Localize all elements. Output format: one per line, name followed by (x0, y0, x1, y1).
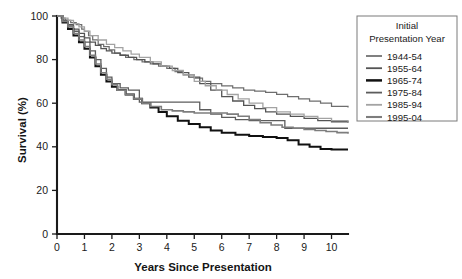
x-axis-ticks: 012345678910 (54, 234, 337, 253)
y-tick-label: 80 (36, 53, 48, 65)
legend-title-line-2: Presentation Year (369, 33, 446, 44)
legend-label-1975-84: 1975-84 (387, 87, 423, 98)
y-tick-label: 100 (30, 10, 48, 22)
legend-label-1944-54: 1944-54 (387, 51, 423, 62)
y-tick-label: 60 (36, 97, 48, 109)
legend-label-1995-04: 1995-04 (387, 112, 423, 123)
y-tick-label: 20 (36, 184, 48, 196)
x-tick-label: 3 (136, 241, 142, 253)
y-tick-label: 40 (36, 140, 48, 152)
survival-chart-figure: 020406080100 012345678910 Survival (%) Y… (0, 0, 462, 279)
x-tick-label: 9 (301, 241, 307, 253)
y-tick-label: 0 (42, 228, 48, 240)
legend-label-1965-74: 1965-74 (387, 75, 423, 86)
legend-label-1985-94: 1985-94 (387, 99, 423, 110)
survival-chart-svg: 020406080100 012345678910 Survival (%) Y… (0, 0, 462, 279)
chart-legend: Initial Presentation Year 1944-541955-64… (357, 16, 457, 123)
x-tick-label: 4 (164, 241, 170, 253)
x-tick-label: 8 (274, 241, 280, 253)
survival-curves-group (57, 16, 348, 149)
x-tick-label: 10 (326, 241, 338, 253)
x-tick-label: 6 (219, 241, 225, 253)
y-axis-title: Survival (%) (16, 97, 28, 163)
x-tick-label: 0 (54, 241, 60, 253)
x-tick-label: 7 (246, 241, 252, 253)
x-tick-label: 2 (109, 241, 115, 253)
x-axis-title: Years Since Presentation (134, 261, 271, 273)
legend-label-1955-64: 1955-64 (387, 63, 423, 74)
x-tick-label: 1 (82, 241, 88, 253)
legend-title-line-1: Initial (396, 20, 418, 31)
y-axis-ticks: 020406080100 (30, 10, 57, 240)
x-tick-label: 5 (191, 241, 197, 253)
